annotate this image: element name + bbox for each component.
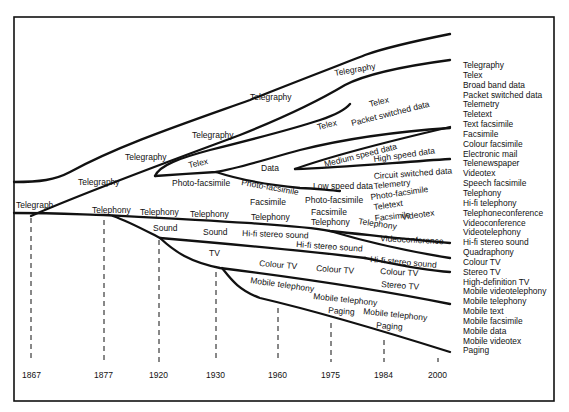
label-mobile-telephony: Mobile telephony <box>363 306 429 323</box>
label-mobile-telephony: Mobile telephony <box>250 275 316 294</box>
year-label: 1975 <box>321 370 340 380</box>
service-legend: Telegraphy Telex Broad band data Packet … <box>463 61 546 356</box>
telecom-evolution-diagram: Telegraph Telegraphy Telegraphy Telegrap… <box>0 0 569 412</box>
label-telegraph: Telegraph <box>16 200 54 210</box>
label-telegraphy: Telegraphy <box>78 177 120 187</box>
label-telex: Telex <box>368 94 390 109</box>
label-telephony: Telephony <box>92 205 132 215</box>
label-facsimile: Facsimile <box>250 197 286 207</box>
label-sound: Sound <box>153 223 178 233</box>
year-label: 2000 <box>428 370 447 380</box>
label-colour-tv: Colour TV <box>259 258 298 271</box>
label-telex: Telex <box>187 156 209 170</box>
label-telegraphy: Telegraphy <box>125 152 167 162</box>
year-label: 1867 <box>22 370 41 380</box>
year-label: 1930 <box>206 370 225 380</box>
label-videoconference: Videoconference <box>380 233 444 246</box>
label-facsimile: Facsimile <box>311 207 347 217</box>
label-data: Data <box>261 163 279 173</box>
label-telephony: Telephony <box>190 209 230 219</box>
label-paging: Paging <box>376 320 403 332</box>
label-low-speed: Low speed data <box>313 181 373 191</box>
label-circuit-switched: Circuit switched data <box>373 166 452 181</box>
year-label: 1984 <box>374 370 393 380</box>
label-sound: Sound <box>203 227 228 237</box>
year-label: 1920 <box>149 370 168 380</box>
label-telephony: Telephony <box>251 212 291 222</box>
year-axis: 1867 1877 1920 1930 1960 1975 1984 2000 <box>22 370 447 380</box>
label-telegraphy: Telegraphy <box>192 130 234 140</box>
year-label: 1877 <box>94 370 113 380</box>
label-stereo-tv: Stereo TV <box>381 279 420 292</box>
label-photofacsimile: Photo-facsimile <box>172 178 230 188</box>
label-tv: TV <box>209 248 220 258</box>
label-colour-tv: Colour TV <box>316 263 355 276</box>
label-paging: Paging <box>328 305 355 317</box>
label-photofacsimile: Photo-facsimile <box>241 177 300 197</box>
label-telephony: Telephony <box>311 217 351 227</box>
legend-item: Paging <box>463 346 546 356</box>
label-photofacsimile: Photo-facsimile <box>305 195 363 205</box>
label-colour-tv: Colour TV <box>380 266 419 278</box>
label-telephony: Telephony <box>140 207 180 217</box>
year-label: 1960 <box>268 370 287 380</box>
label-packet-switched: Packet switched data <box>350 99 431 128</box>
label-telegraphy: Telegraphy <box>250 92 292 102</box>
